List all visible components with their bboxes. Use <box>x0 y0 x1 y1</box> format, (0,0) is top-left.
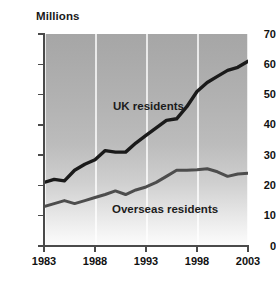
y-tick-60 <box>38 64 44 66</box>
y-tick-10 <box>38 215 44 217</box>
y-tick-30 <box>38 154 44 156</box>
uk-residents-line <box>44 61 248 182</box>
line-chart: Millions 010203040506070 198319881993199… <box>0 0 276 284</box>
y-tick-label-70: 70 <box>244 29 276 40</box>
x-tick-label-2003: 2003 <box>236 255 260 267</box>
x-tick-1983 <box>43 245 45 252</box>
uk-residents-series-label: UK residents <box>113 100 184 112</box>
x-tick-label-1993: 1993 <box>134 255 158 267</box>
y-tick-label-40: 40 <box>244 119 276 130</box>
x-tick-label-1983: 1983 <box>32 255 56 267</box>
y-tick-20 <box>38 185 44 187</box>
y-tick-label-0: 0 <box>244 241 276 252</box>
overseas-residents-line <box>44 169 248 207</box>
y-tick-40 <box>38 124 44 126</box>
y-tick-70 <box>38 33 44 35</box>
y-tick-label-60: 60 <box>244 59 276 70</box>
x-tick-label-1998: 1998 <box>185 255 209 267</box>
x-tick-1988 <box>94 245 96 252</box>
x-tick-1998 <box>196 245 198 252</box>
overseas-residents-series-label: Overseas residents <box>112 203 218 215</box>
y-tick-label-10: 10 <box>244 210 276 221</box>
y-axis-unit-label: Millions <box>36 10 80 22</box>
y-tick-label-30: 30 <box>244 150 276 161</box>
x-tick-2003 <box>247 245 249 252</box>
y-tick-50 <box>38 94 44 96</box>
y-tick-label-20: 20 <box>244 180 276 191</box>
x-tick-label-1988: 1988 <box>83 255 107 267</box>
y-tick-label-50: 50 <box>244 89 276 100</box>
x-tick-1993 <box>145 245 147 252</box>
